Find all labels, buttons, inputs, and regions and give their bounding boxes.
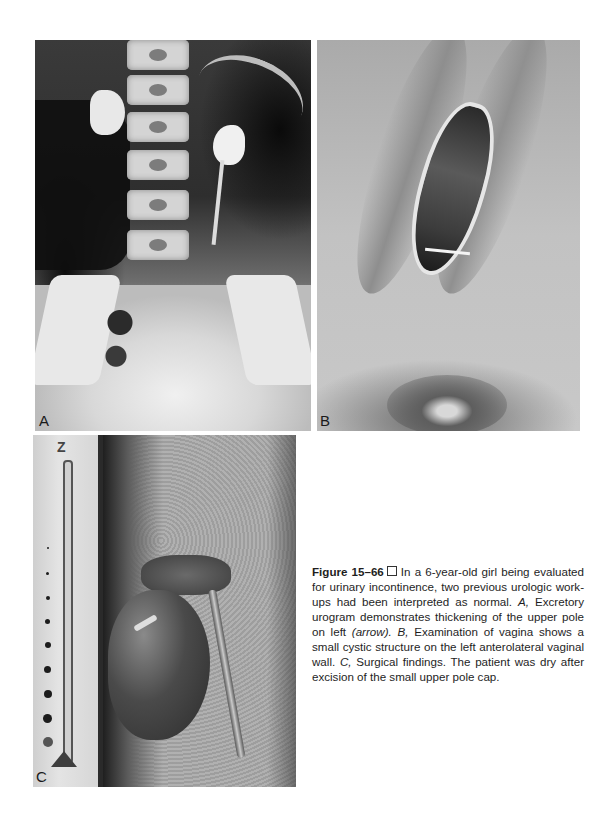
ruler-dot	[45, 619, 50, 624]
ruler-dot	[44, 666, 51, 673]
panel-a-excretory-urogram: A	[35, 40, 311, 431]
ruler-dot	[46, 596, 50, 600]
ruler-dot	[43, 714, 52, 723]
caption-c-text: Surgical findings. The patient was dry a…	[312, 655, 584, 683]
vascular-pedicle	[141, 555, 231, 595]
ruler-mark: Z	[57, 439, 66, 455]
vertebra	[127, 190, 189, 220]
caption-arrow-note: (arrow).	[352, 625, 392, 638]
vertebra	[127, 40, 189, 70]
ruler-dot	[47, 547, 49, 549]
xray-spine	[127, 40, 189, 290]
panel-label-c: C	[36, 769, 47, 784]
ruler-tip	[51, 751, 77, 767]
caption-b-label: B,	[392, 625, 409, 638]
xray-right-kidney	[90, 90, 125, 135]
panel-label-a: A	[39, 413, 49, 428]
ruler-dot	[46, 572, 49, 575]
box-symbol-icon	[387, 566, 397, 576]
vertebra	[127, 150, 189, 180]
caption-c-label: C,	[340, 655, 352, 668]
ruler-dot	[44, 690, 52, 698]
vertebra	[127, 230, 189, 260]
panel-label-b: B	[320, 413, 330, 428]
ruler-dot	[43, 737, 53, 747]
xray-left-kidney-upper-pole	[213, 125, 245, 165]
ruler-instrument: Z	[33, 435, 98, 787]
vertebra	[127, 112, 189, 142]
panel-b-vaginal-exam: B	[317, 40, 580, 431]
figure-number: Figure 15–66	[312, 565, 384, 578]
panel-c-surgical-findings: Z C	[33, 435, 296, 787]
ruler-dot	[45, 642, 51, 648]
ruler-slot	[63, 460, 73, 764]
caption-a-label: A,	[518, 595, 529, 608]
xray-bowel-gas	[100, 300, 140, 375]
lower-shadow	[387, 375, 507, 431]
vertebra	[127, 75, 189, 105]
figure-caption: Figure 15–66In a 6-year-old girl being e…	[312, 564, 584, 684]
